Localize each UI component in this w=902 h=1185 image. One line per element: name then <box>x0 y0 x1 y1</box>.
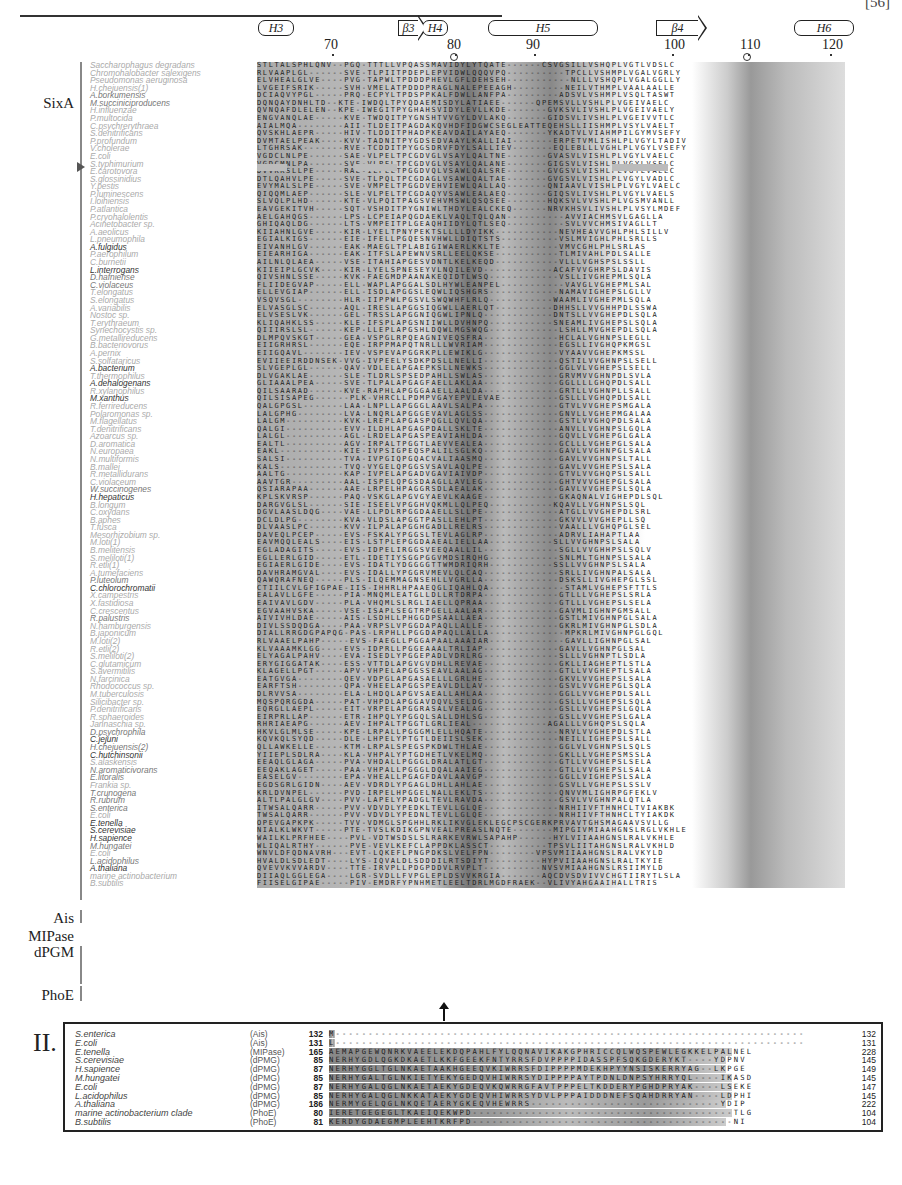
ecoli-highlight-bar <box>257 164 287 171</box>
species-name: B.subtilis <box>90 880 270 888</box>
species-name: S.enterica <box>90 805 270 813</box>
ruler-tick <box>672 54 674 56</box>
conserved-residue-marker-icon <box>450 53 458 61</box>
helix-icon: H4 <box>422 20 448 36</box>
panel-ii-sequence: KERDYGDAEGMPLEEHTKRFPD------------------… <box>329 1118 747 1127</box>
helix-icon: H6 <box>794 20 854 36</box>
group-label: dPGM <box>12 944 74 961</box>
panel-ii-end: 104 <box>856 1118 876 1127</box>
ruler-tick-label: 110 <box>740 37 760 53</box>
ruler-tick-label: 70 <box>324 37 338 53</box>
ruler-tick-label: 90 <box>526 37 540 53</box>
ruler-tick-label: 80 <box>447 37 461 53</box>
conserved-residue-marker-icon <box>743 53 751 61</box>
panel-ii-label: II. <box>33 1028 57 1058</box>
helix-icon: H3 <box>258 20 294 36</box>
species-name: M.hungatei <box>90 843 270 851</box>
sixa-group-bar <box>80 62 82 900</box>
strand-icon: β3 <box>398 20 418 36</box>
ruler-tick <box>534 54 536 56</box>
ss-label: β4 <box>672 21 684 36</box>
panel-ii-row: B.subtilis(PhoE)81KERDYGDAEGMPLEEHTKRFPD… <box>75 1118 875 1127</box>
ss-label: H5 <box>536 21 551 36</box>
ecoli-gap-highlight <box>612 164 668 171</box>
ais-group-bar <box>80 910 82 923</box>
arrow-shaft <box>443 1007 445 1021</box>
group-label: MIPase <box>12 928 74 945</box>
ss-label: H3 <box>269 21 284 36</box>
ecoli-gap-highlight <box>355 164 397 171</box>
strand-icon: β4 <box>656 20 698 36</box>
ruler-tick <box>332 54 334 56</box>
species-name-column: Saccharophagus degradansChromohalobacter… <box>90 62 270 888</box>
ss-label: β3 <box>403 21 415 36</box>
group-label: SixA <box>12 95 74 112</box>
ruler-tick-label: 100 <box>664 37 685 53</box>
dpgm-group-bar <box>80 946 82 984</box>
phoe-group-bar <box>80 986 82 1001</box>
panel-ii-family: (PhoE) <box>250 1118 276 1127</box>
ruler-tick <box>830 54 832 56</box>
group-label: Ais <box>12 910 74 927</box>
header-rule <box>20 15 502 17</box>
ss-label: H6 <box>817 21 832 36</box>
highlight-pointer-icon <box>77 162 85 172</box>
ss-label: H4 <box>428 21 443 36</box>
alignment-panel-i: STLTALSPHLQNV--PGQ-TTTLLVPQASSMAVIDYLYTQ… <box>257 62 845 888</box>
group-label: PhoE <box>12 987 74 1004</box>
species-name: V.cholerae <box>90 145 270 153</box>
panel-ii-start: 81 <box>301 1118 323 1127</box>
helix-icon: H5 <box>488 20 598 36</box>
alignment-panel-ii: S.enterica(Ais)132M---------------------… <box>63 1022 883 1132</box>
ruler-tick-label: 120 <box>822 37 843 53</box>
alignment-row: FIISELGIPAE-----PIV-EMDRFYPNHMETLEELTDRL… <box>257 880 845 888</box>
species-name: B.aphes <box>90 517 270 525</box>
journal-code: [56] <box>865 0 890 11</box>
panel-ii-species: B.subtilis <box>75 1118 111 1127</box>
